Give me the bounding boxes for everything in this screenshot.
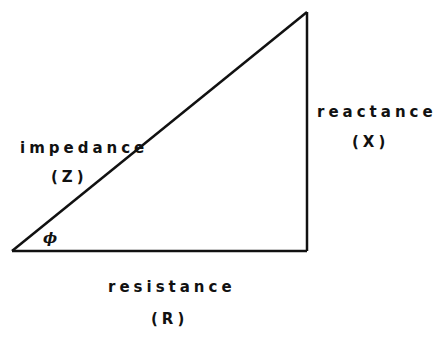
resistance-label: resistance [108, 278, 236, 296]
resistance-symbol: (R) [151, 310, 188, 328]
impedance-label: impedance [20, 139, 148, 157]
reactance-symbol: (X) [352, 133, 389, 151]
impedance-side [12, 12, 307, 251]
reactance-label: reactance [317, 103, 437, 121]
impedance-symbol: (Z) [51, 168, 88, 186]
phase-angle-symbol: ϕ [43, 229, 57, 247]
